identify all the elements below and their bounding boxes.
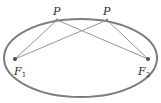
- focus-f2-label: F2: [137, 65, 150, 79]
- point-p1-marker: [55, 18, 58, 21]
- focus-f2-letter: F: [137, 65, 146, 78]
- focus-f1-marker: [13, 57, 17, 61]
- segment-p2-f2: [107, 20, 148, 59]
- focus-f1-label: F1: [13, 65, 26, 79]
- focus-f1-letter: F: [13, 65, 22, 78]
- point-p2-label: P: [102, 5, 111, 18]
- point-p1-label: P: [52, 5, 61, 18]
- focus-f1-subscript: 1: [22, 71, 26, 79]
- point-p2-marker: [105, 18, 108, 21]
- ellipse-foci-diagram: P P F1 F2: [0, 0, 161, 103]
- segment-p1-f2: [57, 20, 148, 59]
- focus-f2-subscript: 2: [146, 71, 150, 79]
- ellipse: [4, 19, 157, 97]
- focus-f2-marker: [146, 57, 150, 61]
- segment-f1-p2: [15, 20, 107, 59]
